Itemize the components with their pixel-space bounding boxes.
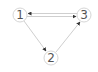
node-3[interactable]: 3 — [77, 8, 91, 22]
node-2[interactable]: 2 — [44, 51, 58, 65]
node-1-label: 1 — [16, 8, 24, 22]
node-1[interactable]: 1 — [13, 8, 27, 22]
edge-2-to-3 — [56, 22, 80, 52]
graph-canvas: 1 2 3 — [0, 0, 98, 72]
node-3-label: 3 — [80, 8, 88, 22]
edge-1-to-2 — [24, 21, 46, 51]
node-2-label: 2 — [47, 51, 55, 65]
